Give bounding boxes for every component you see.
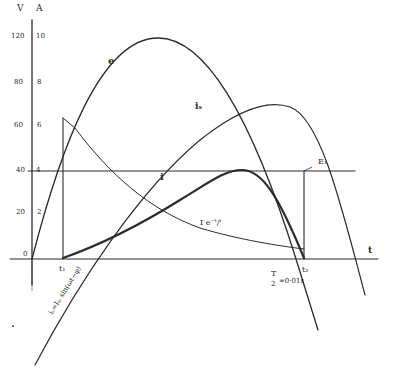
e1-tick [304,167,312,171]
decay-curve-label: I e⁻ᵗ/ᵗ [200,219,221,227]
is-curve [35,105,365,365]
half-period-numerator: T [271,270,276,278]
v-tick-40: 40 [16,167,25,174]
x-axis-title: t [368,246,372,255]
i-curve [63,170,304,258]
v-tick-20: 20 [16,209,25,216]
stray-dot [12,325,14,327]
half-period-denominator: 2 [271,281,275,288]
is-curve-label: iₛ [195,102,202,111]
v-tick-120: 120 [11,33,24,40]
half-period-value: =0·01s [279,278,304,285]
a-tick-10: 10 [36,33,45,40]
a-tick-6: 6 [37,122,41,129]
t1-label: t₁ [59,265,65,273]
y-right-axis-title: A [36,4,43,13]
i-curve-label: i [160,172,164,182]
y-left-axis-title: V [17,4,24,13]
e-curve-label: e [108,56,114,66]
a-tick-4: 4 [36,167,40,174]
origin-label: 0 [23,251,27,258]
waveform-diagram [0,0,404,370]
a-tick-2: 2 [37,209,41,216]
decay-curve [63,118,304,249]
e1-label: E₁ [318,158,327,166]
a-tick-8: 8 [37,79,41,86]
t2-label: t₂ [302,266,308,274]
v-tick-80: 80 [14,79,23,86]
v-tick-60: 60 [14,122,23,129]
